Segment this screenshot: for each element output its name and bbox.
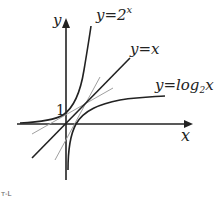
tick-label-one: 1 — [56, 102, 65, 118]
y-axis-label: y — [52, 11, 62, 29]
label-identity: y=x — [129, 40, 160, 58]
tangent-lines — [32, 77, 113, 160]
x-axis-label: x — [181, 126, 190, 145]
corner-mark: т‑L — [1, 190, 12, 197]
function-graph: y x 1 y=2x y=x y=log2x т‑L — [0, 0, 221, 197]
y-axis-arrow-icon — [62, 18, 70, 28]
label-logarithm: y=log2x — [154, 76, 214, 95]
curve-identity — [32, 58, 130, 158]
label-exponential: y=2x — [95, 4, 133, 24]
